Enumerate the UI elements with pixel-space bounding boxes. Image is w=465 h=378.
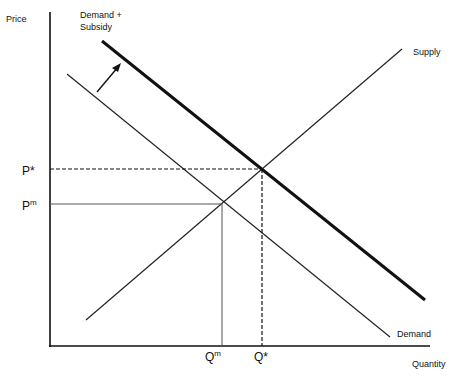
demand-curve bbox=[67, 74, 390, 337]
supply-demand-diagram: Price Quantity Supply Demand Demand + Su… bbox=[0, 0, 465, 378]
shift-arrow-head bbox=[112, 63, 121, 72]
shift-arrow bbox=[97, 67, 118, 92]
p-star-label: P* bbox=[22, 164, 35, 178]
supply-curve bbox=[86, 49, 402, 320]
demand-subsidy-label-line2: Subsidy bbox=[80, 22, 113, 32]
q-m-label: Qm bbox=[205, 349, 221, 364]
demand-label: Demand bbox=[397, 329, 431, 339]
q-star-label: Q* bbox=[254, 350, 268, 364]
demand-subsidy-curve bbox=[102, 41, 425, 300]
demand-subsidy-label-line1: Demand + bbox=[80, 10, 122, 20]
supply-label: Supply bbox=[413, 47, 441, 57]
y-axis-label: Price bbox=[6, 14, 27, 24]
x-axis-label: Quantity bbox=[412, 359, 446, 369]
p-m-label: Pm bbox=[22, 198, 37, 213]
